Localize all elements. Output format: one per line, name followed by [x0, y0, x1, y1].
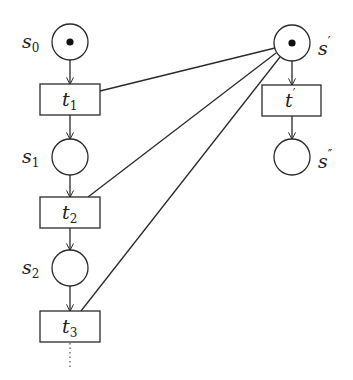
transition-t1: t1: [40, 84, 100, 115]
transition-t2: t2: [40, 197, 100, 228]
transition-t3: t3: [40, 311, 100, 342]
token-icon: [288, 39, 295, 46]
place-s0: s0: [22, 24, 88, 60]
arc-s-prime-t2: [88, 53, 276, 197]
place-s1: s1: [22, 139, 88, 175]
petri-net-diagram: s0 s1 s2 s′ s″ t1 t2 t3 t′: [0, 0, 353, 380]
token-icon: [66, 38, 73, 45]
place-s-dprime: s″: [274, 139, 333, 175]
place-label-s-dprime: s″: [318, 148, 333, 172]
arc-s-prime-t1: [100, 48, 275, 91]
place-label-s-prime: s′: [318, 35, 331, 59]
place-label-s2: s2: [22, 256, 39, 281]
arc-s-prime-t3: [81, 57, 280, 311]
transition-t-prime: t′: [262, 85, 321, 116]
place-label-s0: s0: [22, 30, 39, 55]
read-arcs: [81, 48, 280, 311]
place-s-prime: s′: [274, 25, 331, 61]
place-s2: s2: [22, 250, 88, 286]
place-label-s1: s1: [22, 145, 39, 170]
